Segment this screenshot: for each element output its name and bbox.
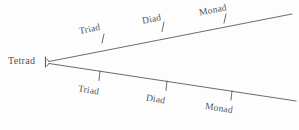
upper-tick-triad bbox=[102, 34, 104, 43]
lower-branch-line bbox=[49, 64, 296, 102]
upper-tick-monad bbox=[224, 14, 226, 23]
upper-branch-line bbox=[49, 14, 292, 62]
root-label-tetrad: Tetrad bbox=[8, 55, 35, 66]
root-bracket-upper bbox=[47, 59, 49, 62]
lower-tick-diad bbox=[166, 81, 167, 91]
lower-tick-monad bbox=[231, 91, 232, 100]
lower-tick-triad bbox=[99, 71, 100, 81]
diagram-canvas: Tetrad Triad Diad Monad Triad Diad Monad bbox=[0, 0, 299, 130]
upper-tick-diad bbox=[162, 22, 164, 32]
root-bracket-lower bbox=[47, 64, 49, 67]
